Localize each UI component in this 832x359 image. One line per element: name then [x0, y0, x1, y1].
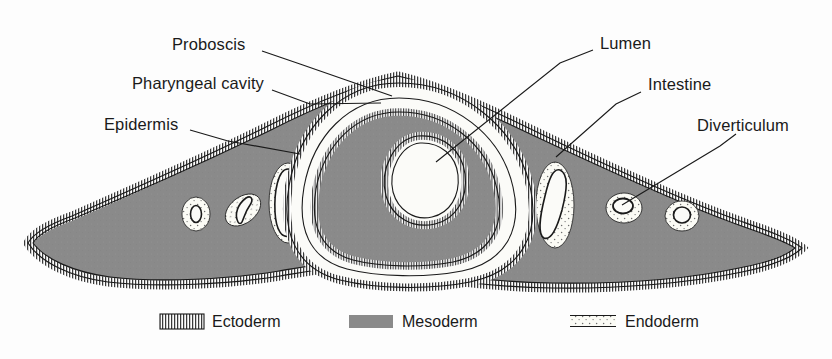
- diverticulum-right-2: [606, 193, 642, 223]
- diverticulum-right-1: [536, 162, 574, 248]
- legend-label-endoderm: Endoderm: [625, 313, 699, 330]
- cross-section-figure: Proboscis Pharyngeal cavity Epidermis Lu…: [0, 0, 832, 359]
- legend-swatch-endoderm: [570, 315, 616, 327]
- legend: Ectoderm Mesoderm Endoderm: [160, 313, 699, 330]
- label-pharyngeal-cavity: Pharyngeal cavity: [132, 74, 265, 92]
- label-proboscis: Proboscis: [172, 35, 245, 53]
- label-intestine: Intestine: [648, 75, 711, 93]
- label-diverticulum: Diverticulum: [697, 116, 789, 134]
- legend-label-mesoderm: Mesoderm: [402, 313, 478, 330]
- diverticulum-left-1: [182, 197, 210, 231]
- label-lumen: Lumen: [600, 34, 651, 52]
- label-epidermis: Epidermis: [104, 115, 178, 133]
- legend-label-ectoderm: Ectoderm: [212, 313, 280, 330]
- lumen: [392, 143, 458, 218]
- legend-swatch-ectoderm: [160, 314, 204, 329]
- legend-swatch-mesoderm: [349, 315, 393, 328]
- diverticulum-right-3: [665, 201, 699, 231]
- leader-proboscis: [262, 51, 392, 96]
- diagram-root: Proboscis Pharyngeal cavity Epidermis Lu…: [0, 0, 832, 359]
